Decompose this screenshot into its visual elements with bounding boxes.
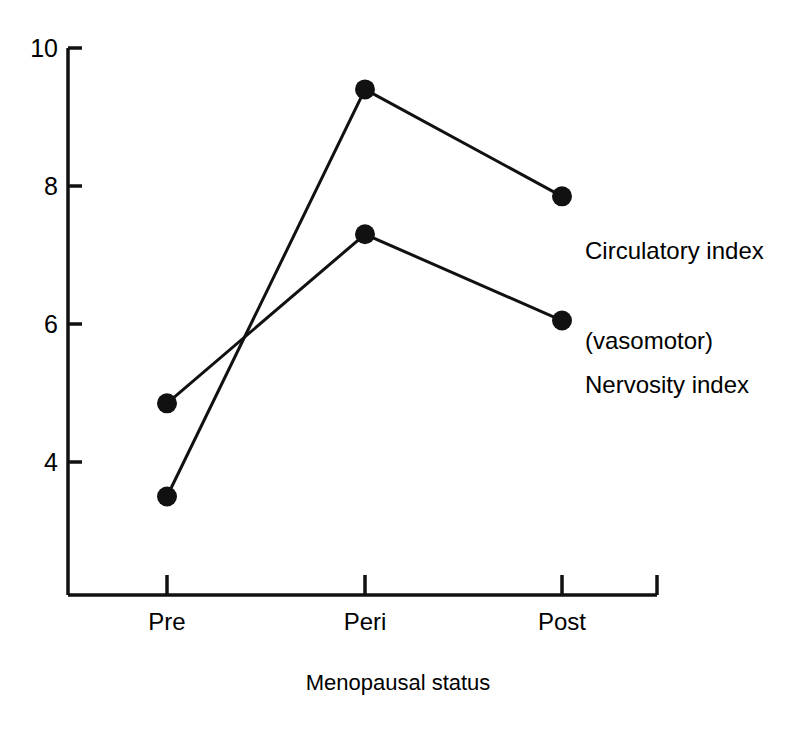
chart-figure: 10 8 6 4 Pre Peri Post Circulatory index… xyxy=(0,0,796,729)
x-tick-label-pre: Pre xyxy=(148,610,185,634)
series-line-0 xyxy=(167,89,562,496)
y-tick-label-4: 4 xyxy=(24,450,58,475)
data-point-marker xyxy=(552,311,572,331)
x-tick-label-post: Post xyxy=(538,610,586,634)
series-label-nervosity-line1: Nervosity index xyxy=(585,370,749,400)
data-point-marker xyxy=(355,224,375,244)
data-point-marker xyxy=(157,393,177,413)
data-point-marker xyxy=(157,487,177,507)
x-axis-title: Menopausal status xyxy=(0,672,796,694)
series-label-circulatory-line1: Circulatory index xyxy=(585,236,764,266)
y-tick-label-10: 10 xyxy=(24,36,58,61)
x-tick-label-peri: Peri xyxy=(344,610,387,634)
data-point-marker xyxy=(355,79,375,99)
series-layer xyxy=(157,79,572,506)
y-tick-label-8: 8 xyxy=(24,174,58,199)
data-point-marker xyxy=(552,186,572,206)
y-tick-label-6: 6 xyxy=(24,312,58,337)
series-label-nervosity: Nervosity index xyxy=(585,310,749,460)
